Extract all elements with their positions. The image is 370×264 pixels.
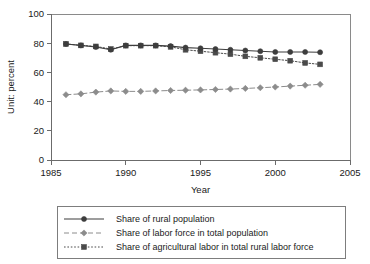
- chart-figure: 02040608010019851990199520002005YearUnit…: [0, 0, 370, 264]
- data-point: [108, 88, 114, 94]
- y-axis-tick-label: 0: [39, 154, 44, 165]
- data-point: [197, 87, 203, 93]
- data-point: [78, 91, 84, 97]
- y-axis-tick-label: 60: [33, 67, 44, 78]
- y-axis-tick-label: 40: [33, 96, 44, 107]
- data-point: [212, 86, 218, 92]
- y-axis-tick-label: 80: [33, 38, 44, 49]
- series-line: [66, 44, 320, 64]
- data-point: [198, 46, 203, 51]
- series-line: [66, 44, 320, 52]
- x-axis-tick-label: 1995: [190, 167, 211, 178]
- data-point: [138, 43, 143, 48]
- data-point: [213, 47, 218, 52]
- data-point: [93, 89, 99, 95]
- x-axis-title: Year: [191, 184, 210, 195]
- y-axis-tick-label: 20: [33, 125, 44, 136]
- data-point: [302, 82, 308, 88]
- legend-marker: [82, 245, 87, 250]
- data-point: [123, 43, 128, 48]
- data-point: [288, 58, 293, 63]
- legend-label: Share of agricultural labor in total rur…: [116, 242, 314, 252]
- x-axis-tick-label: 1990: [115, 167, 136, 178]
- data-point: [63, 92, 69, 98]
- x-axis-tick-label: 2005: [339, 167, 360, 178]
- data-point: [183, 45, 188, 50]
- series-3: [64, 42, 323, 67]
- data-point: [228, 47, 233, 52]
- legend-marker: [82, 217, 87, 222]
- data-point: [318, 50, 323, 55]
- data-point: [317, 81, 323, 87]
- series-1: [63, 41, 322, 54]
- x-axis-tick-label: 2000: [265, 167, 286, 178]
- data-point: [227, 86, 233, 92]
- x-axis-tick-label: 1985: [40, 167, 61, 178]
- data-point: [243, 54, 248, 59]
- y-axis-tick-label: 100: [28, 8, 44, 19]
- y-axis-title: Unit: percent: [5, 60, 16, 114]
- data-point: [63, 41, 68, 46]
- series-2: [63, 81, 323, 98]
- data-point: [123, 88, 129, 94]
- data-point: [303, 49, 308, 54]
- data-point: [318, 62, 323, 67]
- data-point: [273, 49, 278, 54]
- data-point: [287, 83, 293, 89]
- data-point: [258, 55, 263, 60]
- line-chart: 02040608010019851990199520002005YearUnit…: [0, 0, 370, 264]
- data-point: [182, 87, 188, 93]
- data-point: [288, 49, 293, 54]
- data-point: [153, 43, 158, 48]
- data-point: [257, 85, 263, 91]
- series-line: [66, 84, 320, 94]
- data-point: [272, 84, 278, 90]
- legend-label: Share of labor force in total population: [116, 228, 268, 238]
- data-point: [153, 88, 159, 94]
- data-point: [273, 57, 278, 62]
- legend-label: Share of rural population: [116, 214, 215, 224]
- data-point: [243, 48, 248, 53]
- data-point: [93, 44, 98, 49]
- data-point: [242, 85, 248, 91]
- data-point: [168, 87, 174, 93]
- data-point: [138, 88, 144, 94]
- data-point: [78, 43, 83, 48]
- data-point: [303, 61, 308, 66]
- data-point: [108, 47, 113, 52]
- data-point: [168, 44, 173, 49]
- data-point: [258, 49, 263, 54]
